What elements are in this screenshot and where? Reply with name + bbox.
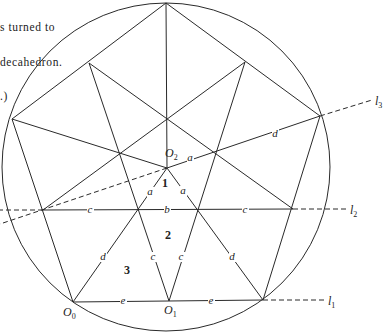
edge-ur-o1 xyxy=(169,62,245,301)
edge-ur-q0 xyxy=(43,62,245,210)
label-c-l2-left: c xyxy=(88,203,93,215)
label-c-o1-right: c xyxy=(179,250,184,262)
label-d-o0: d xyxy=(100,250,106,262)
point-o0: O0 xyxy=(63,305,76,321)
region-2: 2 xyxy=(165,228,171,242)
edge-o0-b xyxy=(73,300,263,302)
point-o1: O1 xyxy=(164,303,177,319)
edge-t-o2 xyxy=(166,3,167,168)
l3-extension-left xyxy=(0,168,167,224)
label-c-l2-right: c xyxy=(243,203,248,215)
label-e-left: e xyxy=(121,294,126,306)
dashed-lines xyxy=(0,100,372,300)
label-c-o1-left: c xyxy=(151,250,156,262)
label-e-right: e xyxy=(209,294,214,306)
label-d-o2-r: d xyxy=(272,127,278,139)
line-l2: l2 xyxy=(350,203,357,219)
label-d-b: d xyxy=(229,250,235,262)
region-1: 1 xyxy=(162,176,168,190)
pentagram-decomposition-diagram: adaacbcdccdee123O2O0O1l3l2l1 xyxy=(0,0,384,335)
label-a-o2-right: a xyxy=(187,151,193,163)
l3-extension-right xyxy=(320,100,372,116)
region-3: 3 xyxy=(124,263,130,277)
edge-l-o2 xyxy=(12,119,167,168)
point-o2: O2 xyxy=(165,146,178,162)
label-b-l2: b xyxy=(164,203,170,215)
edge-t-r xyxy=(166,3,320,116)
label-a-right: a xyxy=(180,184,186,196)
line-l3: l3 xyxy=(375,94,382,110)
line-l1: l1 xyxy=(328,294,335,310)
label-a-left: a xyxy=(147,185,153,197)
